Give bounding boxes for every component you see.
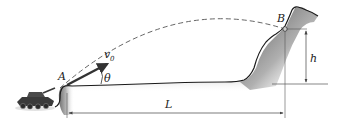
- velocity-vector-arrow: [67, 64, 107, 85]
- label-distance-l: L: [164, 98, 172, 111]
- label-point-b: B: [276, 12, 285, 25]
- label-angle-theta: θ: [104, 72, 111, 85]
- projectile-diagram: A B v 0 θ h L: [0, 0, 347, 123]
- label-point-a: A: [57, 70, 66, 83]
- tank-icon: [15, 88, 55, 111]
- angle-arc: [101, 70, 103, 84]
- label-velocity-subscript: 0: [110, 55, 115, 63]
- label-height-h: h: [310, 52, 317, 65]
